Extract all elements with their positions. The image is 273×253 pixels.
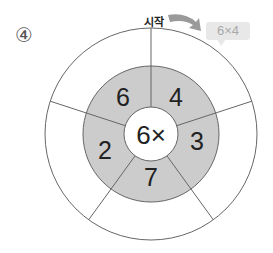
inner-number-top-right: 4 [169, 83, 183, 111]
inner-number-top-left: 6 [116, 83, 130, 111]
start-arrow-icon [168, 14, 201, 31]
example-bubble: 6×4 [206, 22, 250, 40]
bubble-tail [217, 39, 226, 46]
inner-number-bottom: 7 [144, 163, 158, 191]
inner-number-left: 2 [98, 136, 112, 164]
inner-number-right: 3 [190, 127, 204, 155]
center-multiplier: 6× [136, 120, 166, 150]
